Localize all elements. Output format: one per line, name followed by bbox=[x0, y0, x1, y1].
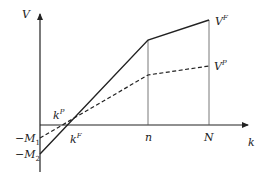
label-VF: VF bbox=[215, 14, 229, 28]
line-VF bbox=[40, 20, 209, 154]
tick-M2: −M2 bbox=[15, 148, 40, 163]
tick-N: N bbox=[203, 131, 214, 144]
tick-n: n bbox=[145, 131, 152, 144]
y-axis-label: V bbox=[22, 8, 31, 21]
tick-kF: kF bbox=[70, 132, 83, 146]
value-diagram: V k VF VP n N kF kP −M1 −M2 bbox=[0, 0, 267, 180]
tick-M1: −M1 bbox=[15, 132, 40, 147]
x-axis-label: k bbox=[248, 136, 255, 149]
label-kP: kP bbox=[53, 108, 65, 122]
label-VP: VP bbox=[214, 59, 227, 73]
